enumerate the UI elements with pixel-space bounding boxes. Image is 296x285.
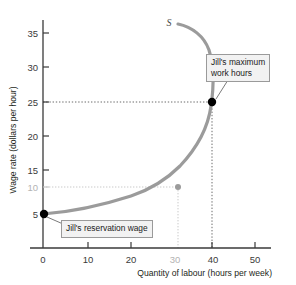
maximum-hours-point	[208, 98, 216, 106]
y-tick-label-10: 10	[27, 182, 38, 193]
x-tick-label-50: 50	[250, 254, 261, 265]
data-point-markers	[40, 98, 216, 218]
leader-line-max-hours	[216, 80, 228, 99]
y-tick-label-5: 5	[33, 209, 38, 220]
y-tick-label-20: 20	[27, 131, 38, 142]
x-tick-label-40: 40	[208, 254, 219, 265]
supply-curve-label: S	[167, 17, 172, 28]
callout-res-line-1: Jill's reservation wage	[66, 223, 148, 234]
x-axis-tick-labels: 0 10 20 30 40 50	[40, 254, 260, 265]
x-tick-label-30: 30	[170, 254, 181, 265]
reservation-wage-callout: Jill's reservation wage	[61, 220, 153, 238]
y-axis-ticks	[43, 33, 49, 214]
x-tick-label-0: 0	[40, 254, 45, 265]
callout-max-line-2: work hours	[211, 68, 265, 79]
x-tick-label-10: 10	[83, 254, 94, 265]
labour-supply-chart: 35 30 25 20 15 10 5 0 10 20 30 40 50 Wag…	[0, 0, 296, 285]
reservation-wage-point	[40, 210, 48, 218]
y-tick-label-35: 35	[27, 28, 38, 39]
x-tick-label-20: 20	[126, 254, 137, 265]
y-axis-title: Wage rate (dollars per hour)	[8, 86, 18, 193]
x-axis-title: Quantity of labour (hours per week)	[137, 268, 272, 278]
callout-max-line-1: Jill's maximum	[211, 57, 265, 68]
x-axis-ticks	[88, 242, 255, 248]
supply-curve	[43, 24, 213, 214]
y-axis-tick-labels: 35 30 25 20 15 10 5	[27, 28, 38, 220]
y-tick-label-15: 15	[27, 165, 38, 176]
y-tick-label-30: 30	[27, 62, 38, 73]
y-tick-label-25: 25	[27, 97, 38, 108]
thirty-hours-point	[175, 184, 181, 190]
chart-canvas: 35 30 25 20 15 10 5 0 10 20 30 40 50 Wag…	[0, 0, 296, 285]
maximum-work-hours-callout: Jill's maximum work hours	[206, 54, 270, 82]
